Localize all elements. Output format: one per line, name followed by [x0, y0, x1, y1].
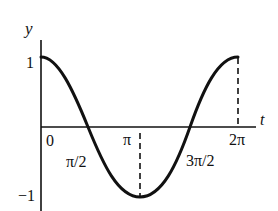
x-tick-three-half-pi: 3π/2	[186, 152, 215, 169]
x-tick-half-pi: π/2	[66, 153, 87, 170]
x-axis-label: t	[260, 111, 265, 128]
cosine-graph: y t 1 −1 0 π/2 π 3π/2 2π	[0, 0, 278, 211]
y-axis-label: y	[23, 19, 33, 38]
x-tick-pi: π	[123, 131, 131, 148]
y-tick-neg1: −1	[18, 187, 35, 204]
x-tick-0: 0	[46, 132, 54, 149]
y-tick-1: 1	[26, 54, 34, 71]
x-tick-2pi: 2π	[229, 131, 245, 148]
